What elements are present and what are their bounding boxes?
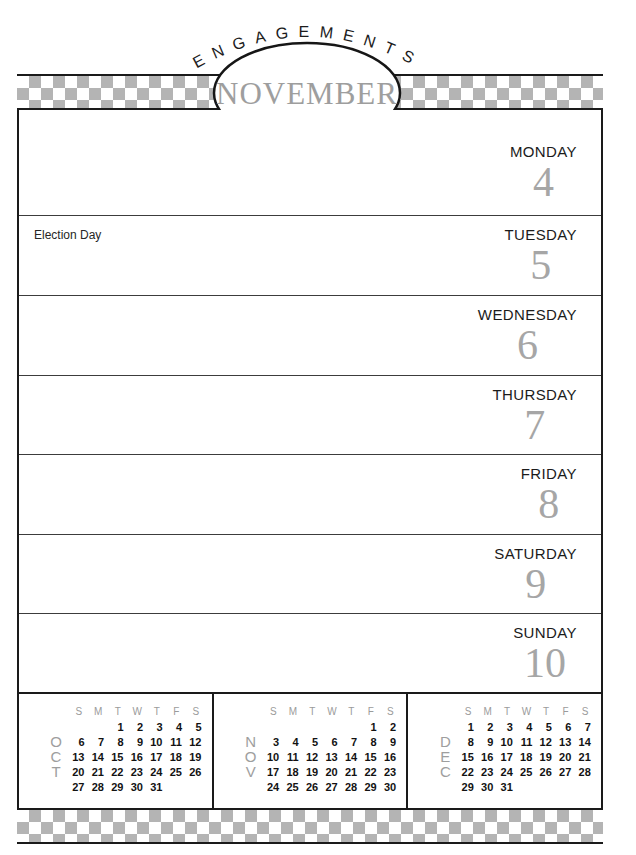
weekday-header: S [458,706,478,717]
day-number: 5 [530,243,551,287]
mini-date: 3 [264,736,284,748]
day-label: SUNDAY [513,624,577,641]
mini-date: 18 [283,766,303,778]
mini-date: 7 [89,736,109,748]
day-label: TUESDAY [504,226,577,243]
weekday-header: T [497,706,517,717]
mini-date: 26 [186,766,206,778]
weekday-header: M [283,706,303,717]
mini-cal-grid: SMTWTFS123456789101112131415161718192021… [458,704,595,808]
day-note: Election Day [34,228,101,242]
weekday-header: W [322,706,342,717]
weekday-header: T [147,706,167,717]
mini-date: 6 [69,736,89,748]
mini-date: 27 [322,781,342,793]
mini-date: 10 [147,736,167,748]
mini-date: 5 [303,736,323,748]
day-heading: MONDAY 4 [510,143,577,204]
mini-date: 16 [478,751,498,763]
day-row-friday[interactable]: FRIDAY 8 [19,454,601,534]
mini-date: 17 [147,751,167,763]
mini-date: 29 [108,781,128,793]
mini-date: 18 [167,751,187,763]
mini-date: 26 [536,766,556,778]
mini-date: 29 [361,781,381,793]
mini-date: 30 [128,781,148,793]
mini-date: 16 [381,751,401,763]
mini-date: 2 [381,721,401,733]
mini-date: 1 [108,721,128,733]
weekday-header: F [361,706,381,717]
mini-date: 25 [283,781,303,793]
mini-date: 12 [186,736,206,748]
mini-date: 2 [128,721,148,733]
mini-date: 28 [89,781,109,793]
day-row-thursday[interactable]: THURSDAY 7 [19,375,601,455]
mini-date: 20 [69,766,89,778]
mini-date: 12 [303,751,323,763]
mini-date: 17 [497,751,517,763]
mini-date: 15 [458,751,478,763]
mini-calendars: OCT SMTWTFS12345678910111213141516171819… [17,692,603,808]
mini-date: 16 [128,751,148,763]
mini-date: 19 [536,751,556,763]
mini-date: 18 [517,751,537,763]
mini-date: 8 [361,736,381,748]
day-label: FRIDAY [521,465,577,482]
day-number: 4 [533,160,554,204]
mini-date: 10 [497,736,517,748]
month-letter: C [432,764,458,779]
mini-date: 7 [342,736,362,748]
weekday-header: S [575,706,595,717]
day-row-monday[interactable]: MONDAY 4 [19,110,601,215]
mini-cal-month-label: OCT [43,704,69,808]
mini-date: 9 [381,736,401,748]
day-row-tuesday[interactable]: Election Day TUESDAY 5 [19,215,601,295]
mini-date: 8 [108,736,128,748]
mini-date: 29 [458,781,478,793]
mini-date: 24 [147,766,167,778]
mini-date: 25 [167,766,187,778]
day-heading: THURSDAY 7 [492,386,577,447]
mini-date: 23 [128,766,148,778]
day-number: 10 [524,641,566,685]
day-label: SATURDAY [494,545,577,562]
month-letter: O [43,734,69,749]
mini-date: 2 [478,721,498,733]
weekday-header: F [167,706,187,717]
weekday-header: S [264,706,284,717]
mini-date: 13 [69,751,89,763]
weekday-header: T [536,706,556,717]
mini-date: 8 [458,736,478,748]
mini-date: 12 [536,736,556,748]
day-heading: SUNDAY 10 [513,624,577,685]
mini-date: 14 [342,751,362,763]
mini-date: 21 [575,751,595,763]
planner-page: ENGAGEMENTS NOVEMBER 1985 MONDAY 4 Elect… [0,0,636,855]
day-heading: SATURDAY 9 [494,545,577,606]
weekday-header: T [342,706,362,717]
weekday-header: S [69,706,89,717]
mini-cal-grid: SMTWTFS123456789101112131415161718192021… [69,704,206,808]
mini-date: 10 [264,751,284,763]
day-row-wednesday[interactable]: WEDNESDAY 6 [19,295,601,375]
mini-date: 13 [556,736,576,748]
day-row-saturday[interactable]: SATURDAY 9 [19,534,601,614]
month-letter: O [238,749,264,764]
mini-date: 11 [167,736,187,748]
month-title: NOVEMBER [216,76,398,111]
mini-date: 28 [575,766,595,778]
weekday-header: M [478,706,498,717]
month-letter: E [432,749,458,764]
mini-date: 31 [497,781,517,793]
day-number: 9 [525,562,546,606]
mini-date: 11 [517,736,537,748]
mini-date: 31 [147,781,167,793]
mini-date: 27 [69,781,89,793]
day-row-sunday[interactable]: SUNDAY 10 [19,613,601,692]
mini-date: 26 [303,781,323,793]
month-letter: C [43,749,69,764]
mini-date: 24 [497,766,517,778]
mini-date: 24 [264,781,284,793]
mini-date: 25 [517,766,537,778]
